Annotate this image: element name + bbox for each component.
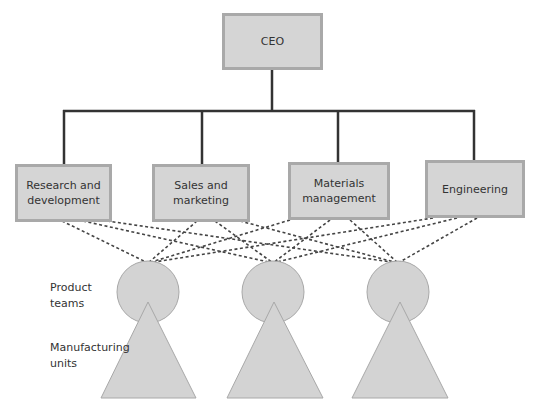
manufacturing-unit-triangle-3 bbox=[352, 302, 448, 398]
department-label: Research and development bbox=[26, 178, 101, 208]
department-box-engineering: Engineering bbox=[425, 160, 525, 218]
matrix-dashed-lines bbox=[62, 218, 477, 263]
manufacturing-units-label: Manufacturing units bbox=[50, 340, 120, 372]
manufacturing-unit-triangle-2 bbox=[227, 302, 323, 398]
matrix-org-chart: CEO Research and development Sales and m… bbox=[0, 0, 533, 411]
department-box-materials: Materials management bbox=[288, 162, 390, 220]
department-box-research: Research and development bbox=[15, 164, 112, 222]
department-box-sales: Sales and marketing bbox=[152, 164, 250, 222]
department-label: Materials management bbox=[299, 176, 379, 206]
department-label: Sales and marketing bbox=[173, 178, 229, 208]
department-label: Engineering bbox=[442, 182, 508, 197]
ceo-box: CEO bbox=[222, 13, 323, 70]
hierarchy-lines bbox=[63, 69, 475, 165]
product-teams-label: Product teams bbox=[50, 280, 110, 312]
ceo-label: CEO bbox=[261, 34, 284, 49]
